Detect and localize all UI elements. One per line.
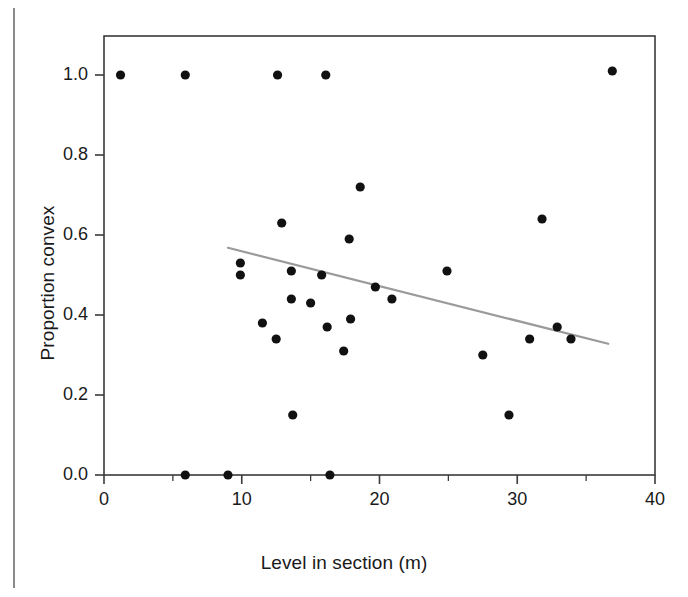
data-point <box>317 270 326 279</box>
data-point <box>116 70 125 79</box>
data-point <box>371 282 380 291</box>
data-point <box>223 470 232 479</box>
data-point <box>525 334 534 343</box>
y-axis-ticks <box>95 75 104 475</box>
data-point <box>236 258 245 267</box>
figure-page: 0.00.20.40.60.81.0 010203040 Level in se… <box>0 0 688 597</box>
data-point <box>608 66 617 75</box>
y-tick-label: 1.0 <box>32 64 88 85</box>
data-point <box>566 334 575 343</box>
data-point <box>236 270 245 279</box>
data-point <box>442 266 451 275</box>
data-points <box>116 66 617 479</box>
data-point <box>356 182 365 191</box>
data-point <box>272 334 281 343</box>
trendline <box>228 248 608 344</box>
data-point <box>258 318 267 327</box>
x-tick-label: 10 <box>212 489 272 510</box>
data-point <box>306 298 315 307</box>
data-point <box>288 410 297 419</box>
data-point <box>273 70 282 79</box>
data-point <box>339 346 348 355</box>
data-point <box>387 294 396 303</box>
y-axis-title: Proportion convex <box>37 83 59 483</box>
data-point <box>181 70 190 79</box>
data-point <box>287 266 296 275</box>
data-point <box>325 470 334 479</box>
x-tick-label: 30 <box>487 489 547 510</box>
data-point <box>277 218 286 227</box>
data-point <box>553 322 562 331</box>
data-point <box>504 410 513 419</box>
data-point <box>346 314 355 323</box>
x-tick-label: 20 <box>350 489 410 510</box>
x-tick-label: 0 <box>74 489 134 510</box>
data-point <box>321 70 330 79</box>
plot-frame <box>104 36 655 475</box>
scatter-plot-figure: 0.00.20.40.60.81.0 010203040 Level in se… <box>0 0 688 597</box>
data-point <box>537 214 546 223</box>
data-point <box>345 234 354 243</box>
x-tick-label: 40 <box>625 489 685 510</box>
data-point <box>287 294 296 303</box>
x-axis-title: Level in section (m) <box>0 552 688 574</box>
data-point <box>181 470 190 479</box>
data-point <box>478 350 487 359</box>
data-point <box>323 322 332 331</box>
